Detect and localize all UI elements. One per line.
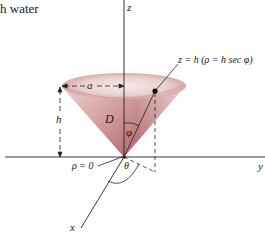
point-on-rim xyxy=(152,88,157,93)
origin-label: ρ = 0 xyxy=(72,161,94,171)
x-axis-label: x xyxy=(70,222,75,232)
y-axis-label: y xyxy=(258,161,263,172)
caption-fragment: h water xyxy=(0,2,39,15)
phi-label: φ xyxy=(126,127,132,138)
cone-diagram: h water z y x a h D φ θ ρ = 0 z = h (ρ =… xyxy=(0,0,265,232)
theta-label: θ xyxy=(124,161,129,171)
height-label: h xyxy=(56,114,62,125)
origin-point xyxy=(122,155,126,159)
top-plane-label: z = h (ρ = h sec φ) xyxy=(178,55,253,65)
radius-label: a xyxy=(87,80,93,91)
region-label: D xyxy=(105,113,114,125)
cone-figure xyxy=(0,0,265,232)
z-axis-label: z xyxy=(127,2,131,13)
